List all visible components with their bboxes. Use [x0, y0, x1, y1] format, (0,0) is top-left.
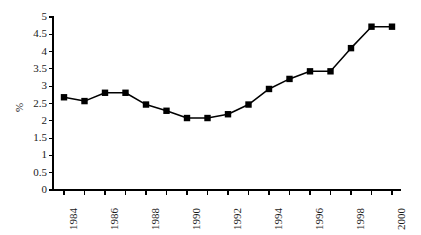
y-axis-tick-label: 5	[7, 11, 47, 22]
x-axis-tick-label: 1994	[273, 208, 284, 230]
y-axis-tick-label: 1.5	[7, 132, 47, 143]
data-point-marker	[122, 90, 128, 96]
y-axis-tick-label: 2.5	[7, 98, 47, 109]
data-point-marker	[81, 98, 87, 104]
x-axis-tick-label: 1988	[150, 208, 161, 230]
y-axis-tick-label: 2	[7, 115, 47, 126]
data-point-marker	[184, 115, 190, 121]
chart-figure: % 00.511.522.533.544.55 1984198619881990…	[0, 0, 421, 235]
y-axis-tick-label: 4.5	[7, 28, 47, 39]
data-point-marker	[286, 76, 292, 82]
data-point-marker	[348, 45, 354, 51]
data-point-marker	[307, 68, 313, 74]
data-point-marker	[102, 90, 108, 96]
y-axis-tick-label: 1	[7, 149, 47, 160]
data-series-line	[64, 27, 392, 118]
series-polyline	[64, 27, 392, 118]
data-point-marker	[266, 86, 272, 92]
x-axis-tick-label: 1990	[191, 208, 202, 230]
y-axis-tick-label: 0.5	[7, 167, 47, 178]
data-point-marker	[327, 68, 333, 74]
data-point-marker	[389, 23, 395, 29]
y-axis-tick-label: 3	[7, 80, 47, 91]
chart-axes	[49, 16, 401, 195]
data-point-markers	[61, 23, 395, 121]
x-axis-tick-label: 1996	[314, 208, 325, 230]
x-axis-tick-label: 1984	[68, 208, 79, 230]
data-point-marker	[61, 94, 67, 100]
y-axis-tick-label: 4	[7, 46, 47, 57]
line-chart-plot	[0, 0, 421, 235]
data-point-marker	[143, 101, 149, 107]
x-axis-tick-label: 1992	[232, 208, 243, 230]
data-point-marker	[225, 111, 231, 117]
data-point-marker	[163, 108, 169, 114]
x-axis-tick-label: 1986	[109, 208, 120, 230]
x-axis-tick-label: 2000	[396, 208, 407, 230]
data-point-marker	[204, 115, 210, 121]
x-axis-tick-label: 1998	[355, 208, 366, 230]
y-axis-tick-label: 3.5	[7, 63, 47, 74]
y-axis-tick-label: 0	[7, 184, 47, 195]
data-point-marker	[245, 101, 251, 107]
data-point-marker	[368, 23, 374, 29]
